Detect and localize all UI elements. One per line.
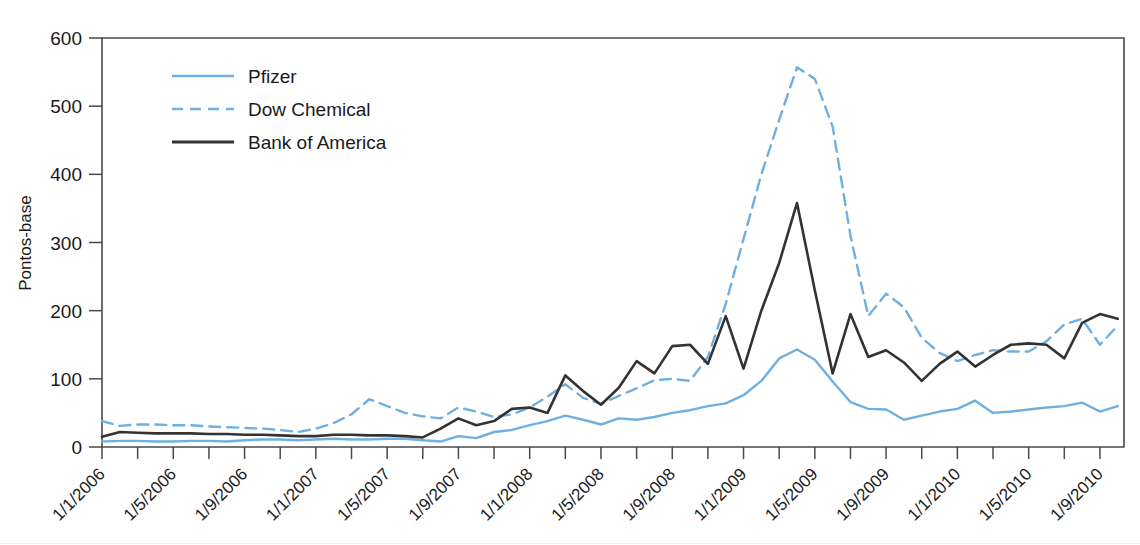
y-tick-label: 300 bbox=[50, 233, 82, 254]
y-axis-title: Pontos-base bbox=[16, 195, 35, 290]
line-chart-figure: 0100200300400500600 Pontos-base 1/1/2006… bbox=[0, 0, 1140, 545]
y-tick-label: 400 bbox=[50, 164, 82, 185]
chart-background bbox=[0, 0, 1140, 545]
y-tick-label: 500 bbox=[50, 96, 82, 117]
chart-canvas: 0100200300400500600 Pontos-base 1/1/2006… bbox=[0, 0, 1140, 545]
legend-label-pfizer: Pfizer bbox=[248, 66, 297, 87]
legend-label-dow-chemical: Dow Chemical bbox=[248, 99, 370, 120]
y-tick-label: 0 bbox=[71, 437, 82, 458]
y-tick-label: 100 bbox=[50, 369, 82, 390]
scan-artifact-line bbox=[0, 543, 1140, 544]
legend-label-bank-of-america: Bank of America bbox=[248, 132, 387, 153]
y-tick-label: 600 bbox=[50, 28, 82, 49]
y-tick-label: 200 bbox=[50, 301, 82, 322]
